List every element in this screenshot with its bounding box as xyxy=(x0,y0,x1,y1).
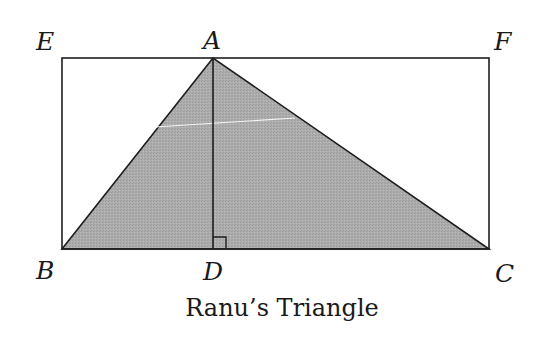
label-d: D xyxy=(202,257,223,286)
triangle-abc xyxy=(62,58,489,249)
label-b: B xyxy=(35,256,54,285)
figure-caption: Ranu’s Triangle xyxy=(185,294,379,322)
label-e: E xyxy=(35,27,54,56)
label-a: A xyxy=(201,26,221,55)
label-f: F xyxy=(493,27,513,56)
label-c: C xyxy=(495,259,514,288)
ranus-triangle-diagram: E A F B D C Ranu’s Triangle xyxy=(0,0,541,344)
